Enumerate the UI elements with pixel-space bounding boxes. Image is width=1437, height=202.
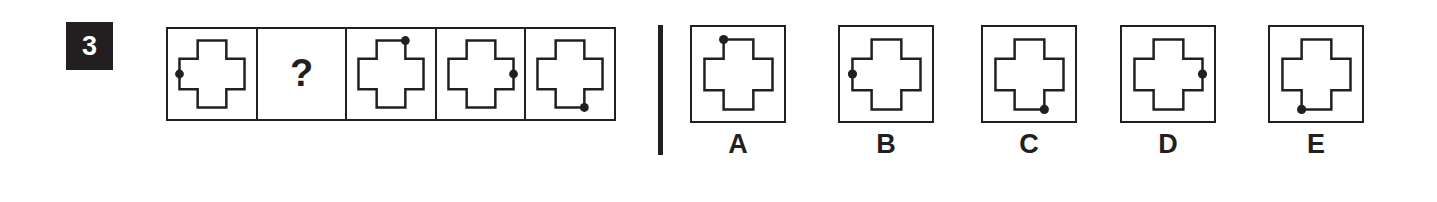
marker-dot-right-middle (509, 70, 518, 79)
marker-dot-bottom-right-corner (1040, 105, 1049, 114)
cross-figure-5 (526, 29, 614, 119)
options-row: A B C (690, 25, 1425, 175)
option-d[interactable]: D (1120, 25, 1216, 123)
question-mark: ? (258, 29, 346, 119)
marker-dot-bottom-left-corner (1297, 105, 1306, 114)
sequence-cell-2[interactable]: ? (256, 27, 348, 121)
cross-figure-d (1122, 27, 1214, 121)
option-e-box[interactable] (1268, 25, 1364, 123)
sequence-cell-4[interactable] (435, 27, 527, 121)
option-a-box[interactable] (690, 25, 786, 123)
cross-figure-a (692, 27, 784, 121)
sequence-cell-1[interactable] (166, 27, 258, 121)
question-number-badge: 3 (66, 22, 113, 70)
marker-dot-left-middle (175, 70, 184, 79)
option-a-label: A (690, 129, 786, 160)
section-divider (658, 25, 663, 155)
cross-figure-4 (437, 29, 525, 119)
sequence-cell-3[interactable] (345, 27, 437, 121)
puzzle-root: 3 ? (0, 0, 1437, 202)
option-c-box[interactable] (981, 25, 1077, 123)
option-c[interactable]: C (981, 25, 1077, 123)
cross-figure-c (983, 27, 1075, 121)
marker-dot-bottom-right-corner (580, 103, 589, 112)
sequence-strip: ? (166, 27, 616, 121)
option-a[interactable]: A (690, 25, 786, 123)
sequence-cell-5[interactable] (524, 27, 616, 121)
marker-dot-top-left-corner (719, 35, 728, 44)
option-d-label: D (1120, 129, 1216, 160)
option-e-label: E (1268, 129, 1364, 160)
option-c-label: C (981, 129, 1077, 160)
option-d-box[interactable] (1120, 25, 1216, 123)
marker-dot-left-middle (848, 69, 857, 78)
cross-figure-1 (168, 29, 256, 119)
cross-figure-3 (347, 29, 435, 119)
option-b[interactable]: B (838, 25, 934, 123)
marker-dot-right-middle (1198, 69, 1207, 78)
cross-figure-e (1270, 27, 1362, 121)
marker-dot-top-right-corner (401, 36, 410, 45)
option-b-label: B (838, 129, 934, 160)
cross-figure-b (840, 27, 932, 121)
option-e[interactable]: E (1268, 25, 1364, 123)
option-b-box[interactable] (838, 25, 934, 123)
